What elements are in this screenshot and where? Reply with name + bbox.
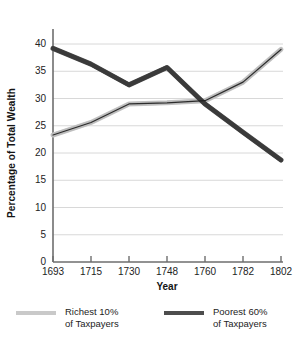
- chart-legend: Richest 10% of Taxpayers Poorest 60% of …: [0, 306, 306, 342]
- x-tick-1693: 1693: [33, 266, 73, 277]
- legend-label-richest: Richest 10% of Taxpayers: [65, 306, 119, 330]
- y-tick-20: 20: [20, 147, 46, 158]
- legend-label-richest-line1: Richest 10%: [65, 306, 119, 318]
- legend-label-poorest: Poorest 60% of Taxpayers: [213, 306, 267, 330]
- x-tick-1782: 1782: [223, 266, 263, 277]
- y-tick-35: 35: [20, 65, 46, 76]
- legend-item-poorest: Poorest 60% of Taxpayers: [164, 306, 267, 330]
- x-tick-1730: 1730: [109, 266, 149, 277]
- y-tick-25: 25: [20, 120, 46, 131]
- y-tick-15: 15: [20, 174, 46, 185]
- legend-swatch-poorest: [164, 311, 204, 315]
- y-tick-30: 30: [20, 93, 46, 104]
- x-tick-1760: 1760: [185, 266, 225, 277]
- legend-label-poorest-line1: Poorest 60%: [213, 306, 267, 318]
- y-tick-10: 10: [20, 202, 46, 213]
- x-tick-1715: 1715: [71, 266, 111, 277]
- legend-label-poorest-line2: of Taxpayers: [213, 318, 267, 330]
- x-axis-title: Year: [53, 281, 281, 292]
- y-axis-title: Percentage of Total Wealth: [4, 44, 20, 262]
- legend-label-richest-line2: of Taxpayers: [65, 318, 119, 330]
- y-tick-40: 40: [20, 38, 46, 49]
- y-tick-5: 5: [20, 229, 46, 240]
- x-tick-1802: 1802: [261, 266, 301, 277]
- line-chart-plot: [0, 0, 306, 344]
- chart-figure: Percentage of Total Wealth Year 05101520…: [0, 0, 306, 344]
- legend-item-richest: Richest 10% of Taxpayers: [16, 306, 119, 330]
- legend-swatch-richest: [16, 311, 56, 315]
- x-tick-1748: 1748: [147, 266, 187, 277]
